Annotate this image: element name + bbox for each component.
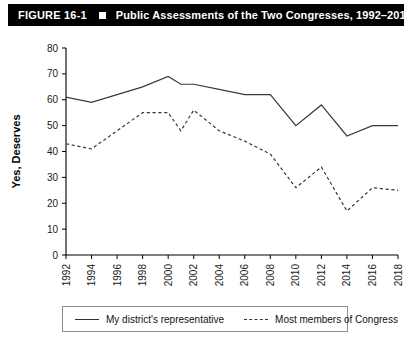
y-tick-label-30: 30 <box>47 172 59 183</box>
x-tick-label-2002: 2002 <box>188 264 199 287</box>
y-tick-label-20: 20 <box>47 198 59 209</box>
figure-title: Public Assessments of the Two Congresses… <box>116 9 412 21</box>
legend-item-0: My district's representative <box>75 314 224 325</box>
y-tick-label-40: 40 <box>47 146 59 157</box>
x-tick-label-1992: 1992 <box>61 264 72 287</box>
y-tick-label-80: 80 <box>47 43 59 54</box>
x-tick-label-2010: 2010 <box>290 264 301 287</box>
x-tick-label-2008: 2008 <box>265 264 276 287</box>
series-line-0 <box>66 76 398 136</box>
figure-title-bar: FIGURE 16-1 Public Assessments of the Tw… <box>8 4 404 26</box>
series-line-1 <box>66 110 398 211</box>
chart-axes <box>66 48 398 255</box>
figure-number: FIGURE 16-1 <box>18 9 87 21</box>
x-tick-label-1998: 1998 <box>137 264 148 287</box>
y-axis-title: Yes, Deserves <box>10 114 22 188</box>
chart-legend: My district's representative Most member… <box>62 306 348 332</box>
x-tick-label-1996: 1996 <box>112 264 123 287</box>
legend-item-1: Most members of Congress <box>244 314 398 325</box>
x-tick-label-2000: 2000 <box>163 264 174 287</box>
y-tick-label-60: 60 <box>47 94 59 105</box>
square-bullet-icon <box>99 12 106 19</box>
x-tick-label-2004: 2004 <box>214 264 225 287</box>
y-tick-label-70: 70 <box>47 68 59 79</box>
legend-swatch-dashed-icon <box>244 319 268 320</box>
x-tick-label-2014: 2014 <box>341 264 352 287</box>
legend-swatch-solid-icon <box>75 319 99 320</box>
figure-container: FIGURE 16-1 Public Assessments of the Tw… <box>0 0 412 349</box>
y-tick-label-10: 10 <box>47 224 59 235</box>
line-chart: 01020304050607080Yes, Deserves1992199419… <box>0 26 412 349</box>
y-tick-label-50: 50 <box>47 120 59 131</box>
y-tick-label-0: 0 <box>52 250 58 261</box>
x-tick-label-2018: 2018 <box>393 264 404 287</box>
x-tick-label-2012: 2012 <box>316 264 327 287</box>
legend-label-1: Most members of Congress <box>275 314 398 325</box>
chart-plot-area: 01020304050607080Yes, Deserves1992199419… <box>0 26 412 349</box>
x-tick-label-1994: 1994 <box>86 264 97 287</box>
x-tick-label-2016: 2016 <box>367 264 378 287</box>
legend-label-0: My district's representative <box>106 314 224 325</box>
x-tick-label-2006: 2006 <box>239 264 250 287</box>
